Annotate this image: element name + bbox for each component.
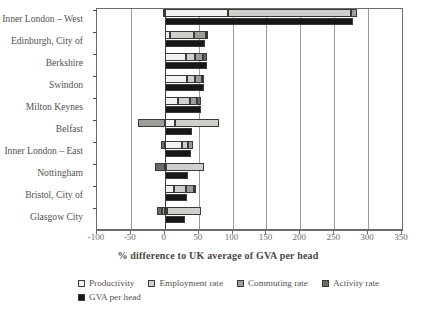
legend-item: Activity rate — [322, 278, 379, 288]
bar-segment — [228, 9, 351, 17]
stacked-bar — [97, 31, 402, 39]
bar-segment — [178, 97, 190, 105]
stacked-bar — [97, 97, 402, 105]
category-label: Berkshire — [0, 52, 86, 74]
bar-row — [97, 163, 402, 185]
stacked-bar — [97, 9, 402, 17]
stacked-bar — [97, 53, 402, 61]
category-label: Edinburgh, City of — [0, 30, 86, 52]
legend-label: GVA per head — [89, 292, 141, 302]
total-bar — [97, 194, 402, 201]
bar-row — [97, 53, 402, 75]
bar-segment — [165, 18, 353, 25]
x-tick-label: 350 — [394, 232, 408, 242]
stacked-bar — [97, 141, 402, 149]
gva-stacked-bar-chart: Inner London – WestEdinburgh, City ofBer… — [0, 0, 436, 315]
bar-row — [97, 141, 402, 163]
legend-swatch-icon — [148, 280, 155, 287]
bar-row — [97, 31, 402, 53]
stacked-bar — [97, 185, 402, 193]
total-bar — [97, 40, 402, 47]
category-axis-labels: Inner London – WestEdinburgh, City ofBer… — [0, 8, 86, 228]
category-label: Belfast — [0, 118, 86, 140]
bar-segment — [165, 84, 204, 91]
bar-segment — [206, 31, 208, 39]
bar-row — [97, 119, 402, 141]
bar-row — [97, 9, 402, 31]
plot-area — [96, 8, 403, 230]
bar-segment — [165, 185, 174, 193]
total-bar — [97, 84, 402, 91]
bar-segment — [165, 106, 202, 113]
stacked-bar — [97, 119, 402, 127]
category-label: Inner London – East — [0, 140, 86, 162]
bar-segment — [165, 172, 189, 179]
bar-segment — [165, 119, 175, 127]
bar-segment — [195, 75, 202, 83]
legend-label: Employment rate — [159, 278, 223, 288]
bar-segment — [165, 128, 192, 135]
category-label: Nottingham — [0, 162, 86, 184]
bar-segment — [157, 207, 162, 215]
bar-row — [97, 185, 402, 207]
legend-swatch-icon — [322, 280, 329, 287]
bar-segment — [188, 141, 193, 149]
bar-segment — [167, 207, 201, 215]
total-bar — [97, 106, 402, 113]
stacked-bar — [97, 207, 402, 215]
legend-label: Activity rate — [333, 278, 379, 288]
bar-segment — [165, 62, 207, 69]
x-tick-label: 300 — [360, 232, 374, 242]
x-tick-label: -100 — [88, 232, 105, 242]
total-bar — [97, 128, 402, 135]
bar-segment — [165, 216, 185, 223]
bar-segment — [165, 141, 183, 149]
total-bar — [97, 216, 402, 223]
x-tick-label: 250 — [326, 232, 340, 242]
x-axis-tick-labels: -100-50050100150200250300350 — [0, 232, 436, 246]
legend-item: Employment rate — [148, 278, 223, 288]
bar-segment — [165, 9, 228, 17]
x-tick-label: 0 — [162, 232, 167, 242]
bar-segment — [155, 163, 165, 171]
total-bar — [97, 62, 402, 69]
stacked-bar — [97, 75, 402, 83]
bar-segment — [194, 31, 206, 39]
legend-item: GVA per head — [78, 292, 141, 302]
bar-segment — [195, 53, 202, 61]
category-label: Bristol, City of — [0, 184, 86, 206]
legend-swatch-icon — [78, 294, 85, 301]
category-label: Inner London – West — [0, 8, 86, 30]
legend-swatch-icon — [78, 280, 85, 287]
legend-label: Productivity — [89, 278, 134, 288]
legend-item: Productivity — [78, 278, 134, 288]
bar-segment — [351, 9, 356, 17]
bar-segment — [166, 163, 204, 171]
bar-row — [97, 97, 402, 119]
stacked-bar — [97, 163, 402, 171]
legend-item: Commuting rate — [237, 278, 308, 288]
bar-segment — [197, 97, 201, 105]
legend-row: ProductivityEmployment rateCommuting rat… — [78, 278, 428, 288]
legend-swatch-icon — [237, 280, 244, 287]
zero-line — [165, 9, 166, 229]
total-bar — [97, 150, 402, 157]
bar-row — [97, 75, 402, 97]
legend-label: Commuting rate — [248, 278, 308, 288]
x-tick-label: 200 — [293, 232, 307, 242]
bar-segment — [186, 53, 195, 61]
bar-segment — [202, 75, 204, 83]
total-bar — [97, 172, 402, 179]
bar-segment — [165, 150, 191, 157]
category-label: Swindon — [0, 74, 86, 96]
category-label: Glasgow City — [0, 206, 86, 228]
x-tick-label: 100 — [225, 232, 239, 242]
legend-row: GVA per head — [78, 292, 428, 302]
bar-segment — [165, 75, 187, 83]
bar-segment — [203, 53, 208, 61]
bar-segment — [138, 119, 165, 127]
bar-segment — [186, 185, 193, 193]
category-label: Milton Keynes — [0, 96, 86, 118]
bar-segment — [187, 75, 194, 83]
x-axis-line — [96, 230, 403, 231]
